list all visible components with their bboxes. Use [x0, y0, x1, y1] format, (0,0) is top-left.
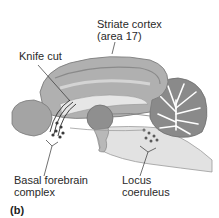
label-striate-cortex: Striate cortex (area 17)	[97, 18, 162, 42]
brain-diagram: Striate cortex (area 17) Knife cut Basal…	[0, 0, 219, 218]
label-striate-cortex-line2: (area 17)	[97, 30, 162, 42]
label-locus-coeruleus: Locus coeruleus	[122, 174, 170, 198]
label-basal-forebrain-line2: complex	[14, 186, 88, 198]
panel-label: (b)	[10, 204, 24, 216]
label-striate-cortex-line1: Striate cortex	[97, 18, 162, 30]
label-basal-forebrain: Basal forebrain complex	[14, 174, 88, 198]
basal-forebrain-nuclei	[51, 121, 64, 138]
olfactory-bulb	[12, 100, 52, 136]
thalamus	[87, 105, 113, 131]
label-locus-coeruleus-line2: coeruleus	[122, 186, 170, 198]
label-locus-coeruleus-line1: Locus	[122, 174, 170, 186]
label-basal-forebrain-line1: Basal forebrain	[14, 174, 88, 186]
label-knife-cut: Knife cut	[19, 50, 62, 62]
